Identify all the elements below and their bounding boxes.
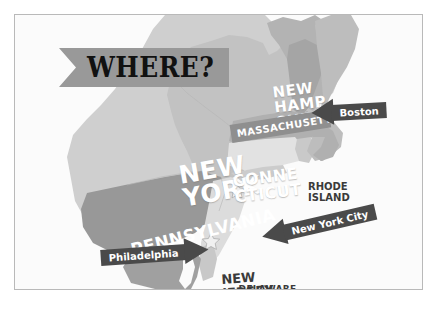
- title-banner: WHERE?: [59, 48, 229, 87]
- callout-boston-bar: Boston: [331, 102, 387, 121]
- title-banner-text: WHERE?: [74, 52, 214, 83]
- slide-frame: WHERE? NEW YORK NEW HAMP SHIRE CONNE CTI…: [14, 14, 423, 290]
- slide-root: WHERE? NEW YORK NEW HAMP SHIRE CONNE CTI…: [0, 0, 441, 327]
- region-connecticut: [227, 137, 303, 171]
- callout-boston-text: Boston: [339, 105, 379, 118]
- callout-philadelphia-arrow-icon: [184, 236, 210, 264]
- callout-philadelphia-text: Philadelphia: [108, 247, 178, 263]
